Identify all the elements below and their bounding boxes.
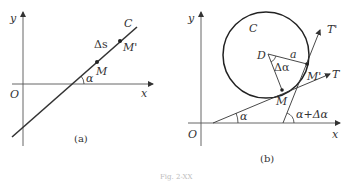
curve-label: C: [249, 22, 258, 35]
figure-canvas: y x O C Δs M M' α (a) y x O C D a Δα M M…: [0, 0, 346, 181]
delta-alpha-label: Δα: [274, 61, 290, 74]
center-d-label: D: [256, 49, 266, 62]
radius-a-label: a: [290, 48, 297, 61]
x-axis-label: x: [141, 87, 148, 100]
figure-caption: Fig. 2-XX: [160, 173, 193, 181]
angle-alpha-arc: [81, 76, 84, 84]
point-m-prime: [118, 39, 122, 43]
point-m-prime-label: M': [122, 41, 137, 54]
tangent-t-prime-label: T': [327, 23, 337, 36]
angle-alpha-label: α: [86, 72, 94, 85]
origin-label: O: [10, 88, 19, 101]
panel-a: y x O C Δs M M' α (a): [9, 12, 153, 146]
angle-alpha-plus-delta-arc: [287, 113, 294, 123]
y-axis-label: y: [9, 12, 17, 25]
panel-a-caption: (a): [74, 133, 88, 144]
panel-b: y x O C D a Δα M M' T T' α α+Δα (b): [187, 12, 341, 164]
tangent-t-label: T: [332, 68, 341, 81]
point-m-prime: [305, 62, 309, 66]
point-m: [280, 88, 284, 92]
point-m-label: M: [95, 65, 108, 78]
point-m: [95, 60, 99, 64]
y-axis-label: y: [187, 12, 195, 25]
curve-label: C: [124, 17, 133, 30]
origin-label: O: [188, 128, 197, 141]
point-m-label: M: [275, 95, 288, 108]
angle-alpha-label: α: [240, 110, 248, 123]
angle-alpha-arc: [236, 113, 238, 123]
curve-c-line: [12, 27, 137, 137]
x-axis-label: x: [332, 128, 339, 141]
arc-length-label: Δs: [94, 38, 108, 51]
point-m-prime-label: M': [306, 70, 321, 83]
panel-b-caption: (b): [260, 153, 274, 164]
angle-alpha-plus-delta-label: α+Δα: [296, 108, 329, 121]
